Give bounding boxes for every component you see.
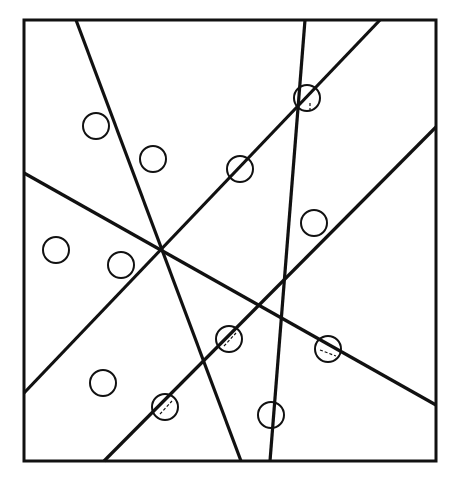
line-arrangement-diagram	[0, 0, 458, 480]
background	[0, 0, 458, 480]
